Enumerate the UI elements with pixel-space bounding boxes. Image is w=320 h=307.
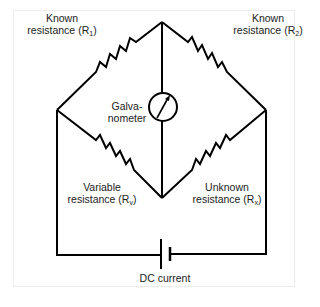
label-r1: Known resistance (R1) [22, 12, 102, 40]
circuit-diagram [0, 0, 320, 307]
label-galvanometer: Galva- nometer [104, 100, 150, 124]
label-dc-current: DC current [125, 272, 205, 284]
label-rx: Unknown resistance (Rx) [187, 181, 267, 209]
label-r2: Known resistance (R2) [228, 12, 308, 40]
label-rv: Variable resistance (Rv) [62, 181, 142, 209]
